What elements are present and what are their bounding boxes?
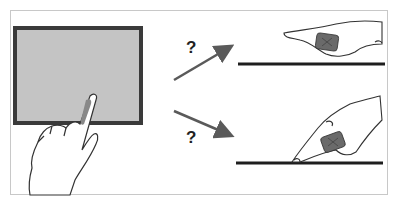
sensor-hover-icon xyxy=(315,33,339,52)
question-mark-upper: ? xyxy=(186,38,196,58)
question-mark-lower: ? xyxy=(186,128,196,148)
hand-press-icon xyxy=(292,96,382,162)
figure-caption xyxy=(60,199,340,206)
arrow-down-right xyxy=(174,111,230,135)
diagram-canvas xyxy=(0,0,400,206)
touchscreen xyxy=(15,28,141,123)
arrow-up-right xyxy=(174,47,230,80)
